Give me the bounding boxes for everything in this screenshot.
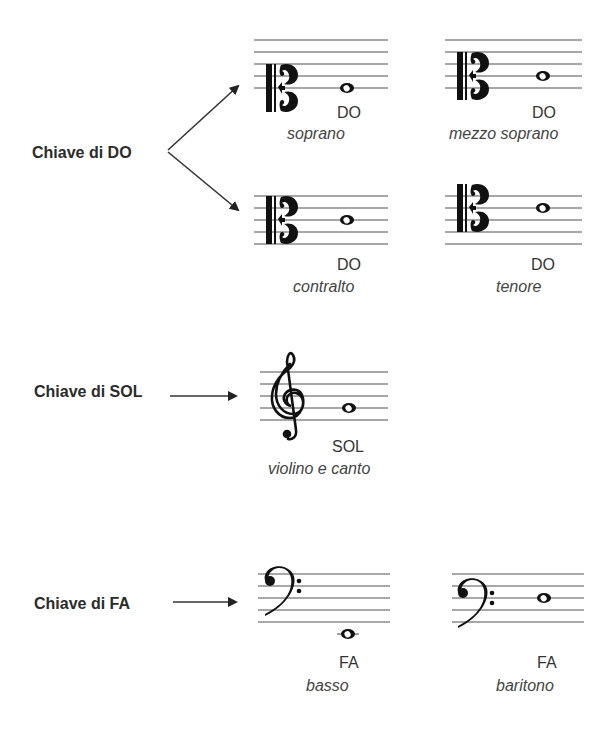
arrow-do-soprano (168, 86, 238, 150)
voice-name-tenore: tenore (496, 278, 541, 296)
note-name-contralto: DO (337, 256, 361, 274)
whole-note-icon (342, 403, 356, 413)
staff-basso (258, 566, 390, 639)
voice-name-basso: basso (306, 677, 349, 695)
whole-note-icon (537, 593, 551, 603)
staff-tenore (445, 184, 582, 244)
note-name-violino: SOL (332, 438, 364, 456)
note-name-mezzo-soprano: DO (532, 104, 556, 122)
arrow-do-contralto (168, 152, 238, 210)
staff-violino (260, 353, 388, 439)
voice-name-baritono: baritono (496, 677, 554, 695)
note-name-soprano: DO (337, 104, 361, 122)
note-name-baritono: FA (537, 654, 557, 672)
note-name-basso: FA (339, 654, 359, 672)
whole-note-icon (536, 203, 550, 213)
note-name-tenore: DO (531, 256, 555, 274)
whole-note-icon (340, 83, 354, 93)
staff-baritono (452, 574, 584, 628)
voice-name-soprano: soprano (287, 125, 345, 143)
staff-soprano (254, 40, 388, 112)
staff-mezzo-soprano (445, 40, 582, 100)
voice-name-contralto: contralto (293, 278, 354, 296)
whole-note-icon (536, 71, 550, 81)
voice-name-violino: violino e canto (268, 460, 370, 478)
staff-contralto (254, 196, 388, 244)
whole-note-icon (340, 215, 354, 225)
clefs-diagram (0, 0, 616, 741)
whole-note-icon (341, 629, 355, 639)
voice-name-mezzo-soprano: mezzo soprano (449, 125, 558, 143)
